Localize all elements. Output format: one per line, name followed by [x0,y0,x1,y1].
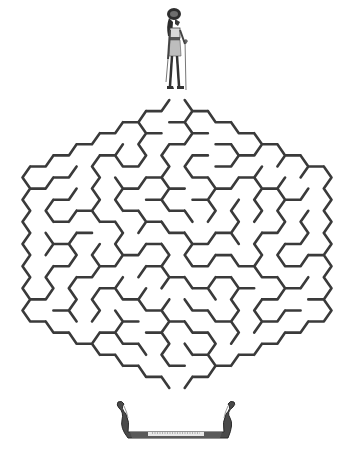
maze-canvas[interactable] [0,0,354,464]
maze-walls [23,100,332,388]
boat-icon [117,401,235,438]
god-figure-icon [166,8,188,90]
maze-wall-path [23,100,332,388]
